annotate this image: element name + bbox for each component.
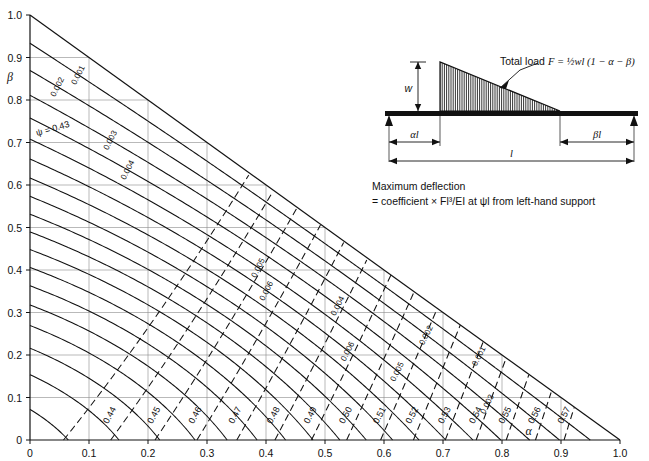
x-tick-label: 0.7 [436, 447, 451, 459]
x-tick-label: 0.6 [377, 447, 392, 459]
coefficient-contour-line [30, 348, 160, 440]
coefficient-contour-label: 0.001 [70, 64, 88, 87]
x-tick-label: 0.2 [141, 447, 156, 459]
coefficient-contour-label: 0.004 [329, 294, 347, 317]
coefficient-contour-label: 0.006 [339, 340, 357, 363]
y-tick-label: 0.5 [7, 222, 22, 234]
x-tick-label: 0 [27, 447, 33, 459]
coefficient-contour-label: 0.005 [250, 256, 268, 279]
psi-contour-label: 0.53 [436, 405, 453, 425]
psi-contour-label: 0.56 [526, 405, 543, 425]
x-tick-label: 0.1 [82, 447, 97, 459]
x-tick-label: 0.4 [259, 447, 274, 459]
dimension-alpha-l: αl [389, 129, 440, 145]
psi-contour-label: 0.55 [496, 405, 513, 425]
coefficient-contour-label: 0.002 [418, 324, 436, 347]
x-tick-label: 0.8 [495, 447, 510, 459]
y-tick-label: 0 [16, 434, 22, 446]
y-tick-label: 0.9 [7, 52, 22, 64]
y-axis-label: β [6, 70, 13, 84]
coefficient-contour-line [30, 409, 68, 440]
dimension-beta-l: βl [560, 129, 634, 145]
dimension-l: l [389, 148, 634, 164]
deflection-coefficient-chart: 00.10.20.30.40.50.60.70.80.91.000.10.20.… [0, 0, 649, 461]
beam-load-diagram: wTotal load F = ½wl (1 − α − β)αlβll [385, 55, 638, 164]
coefficient-contour-labels: 0.0010.0010.0020.0020.0030.0030.0040.004… [49, 64, 496, 416]
axis-ticks: 00.10.20.30.40.50.60.70.80.91.000.10.20.… [6, 9, 627, 459]
y-tick-label: 1.0 [7, 9, 22, 21]
coefficient-contour-label: 0.004 [119, 158, 137, 181]
y-tick-label: 0.4 [7, 264, 22, 276]
psi-contours [64, 175, 575, 440]
caption-block: Maximum deflection= coefficient × Fl³/EI… [372, 180, 595, 207]
coefficient-contour-label: 0.003 [102, 129, 120, 152]
dimension-alpha-l-text: αl [410, 129, 419, 140]
coefficient-contour-line [30, 232, 340, 440]
y-tick-label: 0.3 [7, 307, 22, 319]
psi-contour-labels: 0.440.450.460.470.480.490.500.510.520.53… [35, 119, 572, 425]
psi-contour-label: 0.49 [302, 405, 319, 425]
figure-svg: 00.10.20.30.40.50.60.70.80.91.000.10.20.… [0, 0, 649, 461]
dimension-l-text: l [510, 148, 513, 159]
coefficient-contour-line [30, 178, 419, 440]
y-tick-label: 0.1 [7, 392, 22, 404]
psi-contour-label: 0.51 [371, 405, 388, 425]
coefficient-contour-label: 0.005 [389, 360, 407, 383]
psi-contour-label: 0.57 [555, 405, 572, 425]
psi-contour-label: 0.46 [187, 405, 204, 425]
x-tick-label: 0.3 [200, 447, 215, 459]
x-tick-label: 0.5 [318, 447, 333, 459]
y-tick-label: 0.8 [7, 94, 22, 106]
coefficient-contour-label: 0.006 [258, 279, 276, 302]
dimension-beta-l-text: βl [592, 129, 601, 140]
total-load-annotation: Total load F = ½wl (1 − α − β) [500, 55, 635, 68]
coefficient-contour-line [30, 70, 559, 440]
caption-line-2: = coefficient × Fl³/EI at ψl from left-h… [372, 195, 595, 207]
y-tick-label: 0.6 [7, 179, 22, 191]
x-axis-label: α [525, 424, 532, 438]
beam-member [385, 111, 638, 116]
coefficient-contour-label: 0.001 [470, 345, 488, 368]
psi-contour-label: 0.48 [265, 405, 282, 425]
coefficient-contour-label: 0.002 [49, 75, 67, 98]
x-tick-label: 0.9 [554, 447, 569, 459]
psi-first-contour-label: ψ = 0.43 [35, 119, 71, 138]
total-load-arrowhead [500, 80, 509, 89]
psi-contour-label: 0.44 [101, 405, 118, 425]
y-tick-label: 0.2 [7, 349, 22, 361]
psi-contour-label: 0.50 [337, 405, 354, 425]
caption-line-1: Maximum deflection [372, 180, 466, 192]
x-tick-label: 1.0 [613, 447, 628, 459]
load-height-label: w [404, 82, 413, 94]
psi-contour-label: 0.52 [403, 405, 420, 425]
y-tick-label: 0.7 [7, 137, 22, 149]
triangular-load [440, 60, 560, 111]
coefficient-contour-line [30, 375, 119, 440]
